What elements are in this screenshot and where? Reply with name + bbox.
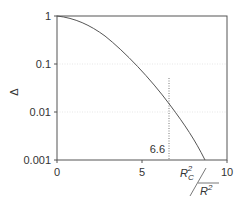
y-tick-label-0.1: 0.1 [36, 58, 51, 70]
y-tick-label-0.01: 0.01 [30, 106, 51, 118]
svg-text:RC2: RC2 [180, 164, 194, 182]
annotation-label-6.6: 6.6 [150, 143, 165, 155]
delta-curve [57, 16, 205, 160]
y-tick-label-0.001: 0.001 [23, 154, 51, 166]
x-tick-label-5: 5 [139, 166, 145, 178]
svg-text:R2: R2 [200, 183, 213, 197]
chart: 1 0.1 0.01 0.001 0 5 10 Δ 6.6 RC2 R2 [0, 0, 244, 201]
y-tick-label-1: 1 [45, 10, 51, 22]
x-axis-label: RC2 R2 [180, 164, 219, 197]
plot-area [57, 16, 227, 160]
x-tick-label-10: 10 [221, 166, 233, 178]
y-axis-label: Δ [8, 88, 20, 96]
x-tick-label-0: 0 [54, 166, 60, 178]
